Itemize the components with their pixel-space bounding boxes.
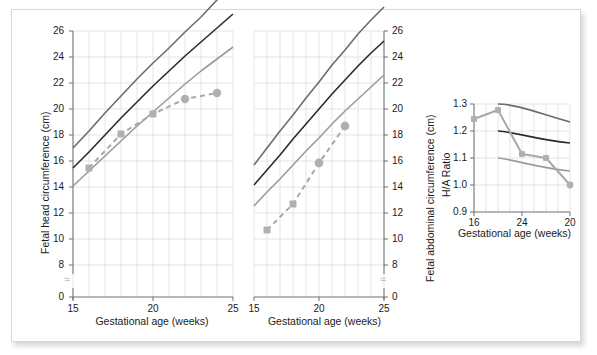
- patient-markers: [264, 122, 350, 234]
- chart-fetal-head-circumference: Fetal head circumference (cm) Gestationa…: [12, 10, 247, 341]
- y-tick-1-2: 1.2: [441, 126, 467, 136]
- x-tick-2: 24: [509, 218, 535, 228]
- y-tick-12: 12: [30, 208, 64, 218]
- y-tick-18: 18: [30, 130, 64, 140]
- y-tick-8: 8: [30, 260, 64, 270]
- x-tick-25: 25: [370, 304, 398, 314]
- y-tick-24: 24: [30, 52, 64, 62]
- y-tick-0: 0: [392, 292, 416, 302]
- y-tick-20: 20: [30, 104, 64, 114]
- y-tick-14: 14: [392, 182, 416, 192]
- x-tick-20: 20: [305, 304, 333, 314]
- y-tick-10: 10: [30, 234, 64, 244]
- x-tick-1: 16: [461, 218, 487, 228]
- y-tick-22: 22: [392, 78, 416, 88]
- y-tick-12: 12: [392, 208, 416, 218]
- y-tick-10: 10: [392, 234, 416, 244]
- y-tick-18: 18: [392, 130, 416, 140]
- y-tick-1-0: 1.0: [441, 180, 467, 190]
- x-tick-15: 15: [240, 304, 268, 314]
- x-tick-3: 20: [557, 218, 583, 228]
- x-tick-15: 15: [59, 304, 87, 314]
- y-axis-break-symbol: ≈: [64, 274, 70, 285]
- y-tick-1-3: 1.3: [441, 99, 467, 109]
- y-tick-14: 14: [30, 182, 64, 192]
- y-tick-0: 0: [30, 292, 64, 302]
- x-tick-20: 20: [139, 304, 167, 314]
- y-tick-16: 16: [30, 156, 64, 166]
- y-tick-16: 16: [392, 156, 416, 166]
- y-tick-26: 26: [392, 26, 416, 36]
- y-tick-0-9: 0.9: [441, 207, 467, 217]
- y-tick-8: 8: [392, 260, 416, 270]
- y-tick-26: 26: [30, 26, 64, 36]
- y-axis-break-symbol: ≈: [380, 274, 386, 285]
- y-tick-20: 20: [392, 104, 416, 114]
- y-tick-24: 24: [392, 52, 416, 62]
- y-tick-22: 22: [30, 78, 64, 88]
- chart-head-to-abdomen-ratio: H/A Ratio Gestational age (weeks): [427, 65, 582, 250]
- figure-frame: Fetal head circumference (cm) Gestationa…: [11, 9, 581, 342]
- figure-root: Fetal head circumference (cm) Gestationa…: [0, 0, 597, 355]
- chart-fetal-abdominal-circumference: Fetal abdominal circumference (cm) Gesta…: [232, 10, 437, 341]
- y-tick-1-1: 1.1: [441, 153, 467, 163]
